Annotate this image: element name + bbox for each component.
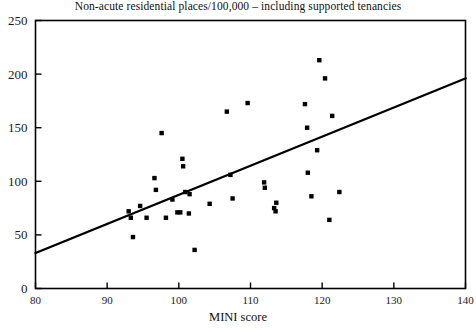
data-point: [323, 76, 327, 80]
data-point: [164, 216, 168, 220]
data-point: [273, 209, 277, 213]
data-point: [309, 194, 313, 198]
data-point: [126, 209, 130, 213]
x-axis-label: MINI score: [0, 310, 476, 325]
y-tick-label: 50: [15, 227, 28, 242]
data-point: [303, 102, 307, 106]
data-point: [228, 173, 232, 177]
scatter-chart: Non-acute residential places/100,000 – i…: [0, 0, 476, 331]
data-points: [126, 58, 341, 252]
x-tick-label: 110: [242, 294, 259, 306]
data-point: [305, 126, 309, 130]
x-tick-label: 130: [386, 294, 403, 306]
data-point: [225, 109, 229, 113]
data-point: [159, 131, 163, 135]
plot-canvas: 050100150200250 8090100110120130140: [0, 0, 476, 331]
axis-frame: [36, 21, 466, 289]
x-axis-ticks: [36, 283, 466, 289]
y-tick-labels: 050100150200250: [8, 13, 28, 296]
x-tick-label: 80: [30, 294, 42, 306]
data-point: [144, 216, 148, 220]
data-point: [317, 58, 321, 62]
trendline: [36, 78, 466, 253]
data-point: [306, 171, 310, 175]
data-point: [245, 101, 249, 105]
data-point: [230, 196, 234, 200]
data-point: [337, 190, 341, 194]
plot-border: [36, 21, 466, 289]
data-point: [315, 148, 319, 152]
data-point: [180, 157, 184, 161]
data-point: [131, 235, 135, 239]
data-point: [263, 186, 267, 190]
data-point: [262, 180, 266, 184]
data-point: [192, 248, 196, 252]
data-point: [154, 188, 158, 192]
data-point: [170, 197, 174, 201]
data-point: [129, 216, 133, 220]
y-tick-label: 0: [21, 281, 28, 296]
y-tick-label: 150: [8, 120, 28, 135]
y-tick-label: 250: [8, 13, 28, 28]
data-point: [178, 210, 182, 214]
x-tick-label: 90: [102, 294, 114, 306]
x-tick-label: 100: [171, 294, 188, 306]
x-tick-label: 120: [314, 294, 331, 306]
x-tick-label: 140: [457, 294, 474, 306]
data-point: [330, 114, 334, 118]
data-point: [138, 204, 142, 208]
y-axis-ticks: [36, 21, 42, 289]
data-point: [181, 164, 185, 168]
data-point: [207, 202, 211, 206]
data-point: [327, 218, 331, 222]
trendline-path: [36, 78, 466, 253]
y-tick-label: 200: [8, 67, 28, 82]
data-point: [187, 211, 191, 215]
data-point: [152, 176, 156, 180]
data-point: [187, 192, 191, 196]
data-point: [274, 201, 278, 205]
y-tick-label: 100: [8, 174, 28, 189]
x-tick-labels: 8090100110120130140: [30, 294, 474, 306]
data-point: [183, 190, 187, 194]
